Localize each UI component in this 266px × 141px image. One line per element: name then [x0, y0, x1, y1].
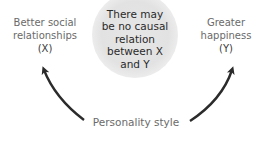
node-greater-happiness: Greater happiness (Y): [186, 16, 266, 55]
arrow-to-y: [190, 70, 232, 121]
variable-label: (X): [0, 42, 90, 55]
node-label: Greater: [186, 16, 266, 29]
node-better-social-relationships: Better social relationships (X): [0, 16, 90, 55]
note-line: There may: [95, 8, 175, 21]
node-label: Better social: [0, 16, 90, 29]
no-causal-note: There may be no causal relation between …: [92, 0, 178, 78]
node-label: relationships: [0, 29, 90, 42]
note-line: and Y: [95, 58, 175, 71]
arrow-to-x: [44, 70, 84, 120]
note-line: relation: [95, 33, 175, 46]
note-line: be no causal: [95, 20, 175, 33]
node-label: happiness: [186, 29, 266, 42]
node-personality-style: Personality style: [88, 116, 184, 129]
node-label: Personality style: [88, 116, 184, 129]
note-text: There may be no causal relation between …: [95, 8, 175, 71]
variable-label: (Y): [186, 42, 266, 55]
note-line: between X: [95, 45, 175, 58]
